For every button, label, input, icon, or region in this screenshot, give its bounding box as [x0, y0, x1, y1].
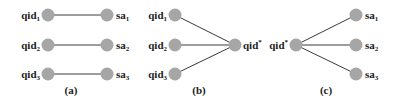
label-sa3-a: sa3 [116, 68, 130, 82]
label-qid3-b: qid3 [148, 68, 167, 82]
node-sa2-a [101, 39, 114, 52]
node-sa1-a [101, 9, 114, 22]
panel-b: qid1 qid2 qid3 qid* (b) [148, 9, 262, 98]
node-sa2-c [350, 39, 363, 52]
edge-b-1 [175, 15, 235, 45]
edge-c-3 [296, 45, 356, 74]
label-qidstar-b: qid* [243, 38, 262, 51]
caption-b: (b) [192, 84, 206, 97]
label-sa1-a: sa1 [116, 9, 130, 23]
node-sa1-c [350, 9, 363, 22]
panel-c: qid* sa1 sa2 sa3 (c) [269, 9, 379, 98]
node-qid1-b [169, 9, 182, 22]
label-qid1-a: qid1 [21, 9, 40, 23]
label-sa3-c: sa3 [365, 68, 379, 82]
caption-c: (c) [320, 84, 333, 97]
label-qid3-a: qid3 [21, 68, 40, 82]
node-qid1-a [42, 9, 55, 22]
node-qidstar-b [229, 39, 242, 52]
caption-a: (a) [65, 84, 78, 97]
label-qid2-b: qid2 [148, 39, 167, 53]
label-qidstar-c: qid* [269, 38, 288, 51]
label-sa2-a: sa2 [116, 39, 130, 53]
node-qid3-b [169, 68, 182, 81]
node-sa3-a [101, 68, 114, 81]
node-qidstar-c [290, 39, 303, 52]
panel-a: qid1 qid2 qid3 sa1 sa2 sa3 (a) [21, 9, 130, 98]
label-sa1-c: sa1 [365, 9, 379, 23]
node-qid3-a [42, 68, 55, 81]
node-qid2-a [42, 39, 55, 52]
label-sa2-c: sa2 [365, 39, 379, 53]
label-qid1-b: qid1 [148, 9, 167, 23]
node-sa3-c [350, 68, 363, 81]
node-qid2-b [169, 39, 182, 52]
diagram-canvas: qid1 qid2 qid3 sa1 sa2 sa3 (a) qid1 qid2… [0, 0, 396, 102]
edge-c-1 [296, 15, 356, 45]
label-qid2-a: qid2 [21, 39, 40, 53]
edge-b-3 [175, 45, 235, 74]
